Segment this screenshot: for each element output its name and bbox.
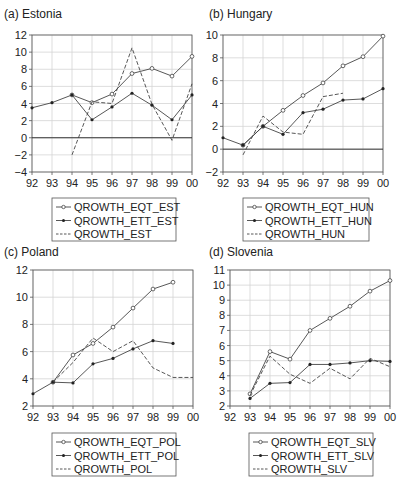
- data-marker-filled: [90, 118, 93, 121]
- y-tick-label: 6: [21, 80, 27, 92]
- data-marker-filled: [348, 361, 351, 364]
- y-axis: 24681012: [16, 264, 33, 412]
- x-axis: 929394959697989900: [217, 172, 389, 189]
- data-marker-open: [131, 306, 135, 310]
- data-marker-filled: [170, 118, 173, 121]
- legend-label: QROWTH_EQT_EST: [74, 201, 181, 213]
- data-marker-open: [348, 304, 352, 308]
- x-tick-label: 94: [67, 411, 79, 423]
- legend-label: QROWTH_POL: [74, 463, 152, 475]
- data-marker-filled: [281, 133, 284, 136]
- data-marker-open: [308, 329, 312, 333]
- legend-label: QROWTH_EQT_SLV: [271, 436, 377, 448]
- data-marker-open: [110, 92, 114, 96]
- y-tick-label: 4: [22, 373, 28, 385]
- legend-label: QROWTH_HUN: [265, 228, 345, 240]
- x-axis: 929394959697989900: [224, 406, 396, 423]
- x-tick-label: 96: [297, 177, 309, 189]
- y-tick-label: 5: [219, 355, 225, 367]
- y-tick-label: 9: [219, 294, 225, 306]
- data-marker-open: [341, 64, 345, 68]
- data-marker-open: [190, 55, 194, 59]
- y-tick-label: 4: [212, 98, 218, 110]
- y-tick-label: 7: [219, 324, 225, 336]
- data-marker-filled: [241, 144, 244, 147]
- data-marker-filled: [221, 136, 224, 139]
- data-marker-open: [328, 316, 332, 320]
- data-marker-filled: [171, 342, 174, 345]
- data-marker-filled: [268, 382, 271, 385]
- legend-label: QROWTH_ETT_POL: [74, 450, 179, 462]
- x-tick-label: 97: [127, 411, 139, 423]
- data-marker-open: [361, 55, 365, 59]
- x-tick-label: 00: [186, 177, 198, 189]
- legend-label: QROWTH_EQT_POL: [74, 436, 181, 448]
- data-marker-filled: [321, 108, 324, 111]
- legend-pol: QROWTH_EQT_POLQROWTH_ETT_POLQROWTH_POL: [52, 433, 181, 476]
- chart-panel-slv: (d) Slovenia2345678910119293949596979899…: [209, 245, 396, 476]
- x-tick-label: 92: [224, 411, 236, 423]
- x-tick-label: 93: [46, 177, 58, 189]
- data-marker-filled: [71, 381, 74, 384]
- x-tick-label: 99: [357, 177, 369, 189]
- data-marker-open: [281, 108, 285, 112]
- chart-panel-pol: (c) Poland24681012929394959697989900QROW…: [4, 245, 199, 476]
- y-axis: −4−2024681012: [14, 29, 32, 178]
- data-marker-filled: [368, 359, 371, 362]
- data-marker-filled: [110, 105, 113, 108]
- data-marker-filled: [131, 347, 134, 350]
- data-marker-open: [111, 325, 115, 329]
- data-marker-open: [388, 279, 392, 283]
- y-tick-label: 6: [22, 346, 28, 358]
- grid: [223, 35, 383, 172]
- chart-panel-hun: (b) Hungary−20246810929394959697989900QR…: [205, 7, 389, 241]
- data-marker-open: [301, 94, 305, 98]
- x-axis: 929394959697989900: [26, 172, 198, 189]
- data-marker-filled: [301, 111, 304, 114]
- y-tick-label: −2: [14, 149, 27, 161]
- y-tick-label: 6: [219, 340, 225, 352]
- x-tick-label: 95: [284, 411, 296, 423]
- data-marker-filled: [111, 357, 114, 360]
- data-marker-open: [171, 280, 175, 284]
- y-tick-label: 12: [15, 29, 27, 41]
- x-tick-label: 93: [237, 177, 249, 189]
- y-tick-label: 3: [219, 385, 225, 397]
- x-tick-label: 00: [384, 411, 396, 423]
- x-tick-label: 93: [244, 411, 256, 423]
- data-marker-filled: [151, 339, 154, 342]
- data-marker-filled: [388, 360, 391, 363]
- y-tick-label: 8: [219, 309, 225, 321]
- x-tick-label: 99: [167, 411, 179, 423]
- y-tick-label: 8: [22, 318, 28, 330]
- x-tick-label: 99: [364, 411, 376, 423]
- data-marker-filled: [288, 381, 291, 384]
- chart-title: (d) Slovenia: [209, 245, 273, 259]
- y-axis: −20246810: [205, 29, 223, 178]
- data-marker-filled: [328, 363, 331, 366]
- x-tick-label: 92: [27, 411, 39, 423]
- data-marker-filled: [261, 125, 264, 128]
- y-axis: 234567891011: [213, 264, 230, 412]
- x-tick-label: 96: [106, 177, 118, 189]
- x-tick-label: 94: [66, 177, 78, 189]
- legend-slv: QROWTH_EQT_SLVQROWTH_ETT_SLVQROWTH_SLV: [249, 433, 377, 476]
- grid: [33, 270, 193, 406]
- x-axis: 929394959697989900: [27, 406, 199, 423]
- y-tick-label: 11: [214, 264, 225, 276]
- y-tick-label: 10: [16, 291, 28, 303]
- data-marker-filled: [130, 92, 133, 95]
- x-tick-label: 94: [257, 177, 269, 189]
- data-marker-open: [71, 353, 75, 357]
- x-tick-label: 00: [187, 411, 199, 423]
- y-tick-label: 10: [213, 279, 225, 291]
- legend-label: QROWTH_EST: [74, 228, 152, 240]
- legend-est: QROWTH_EQT_ESTQROWTH_ETT_ESTQROWTH_EST: [52, 198, 181, 241]
- y-tick-label: 10: [15, 46, 27, 58]
- x-tick-label: 93: [47, 411, 59, 423]
- x-tick-label: 97: [324, 411, 336, 423]
- data-marker-open: [268, 350, 272, 354]
- data-marker-filled: [190, 93, 193, 96]
- data-marker-filled: [30, 106, 33, 109]
- grid: [32, 35, 192, 172]
